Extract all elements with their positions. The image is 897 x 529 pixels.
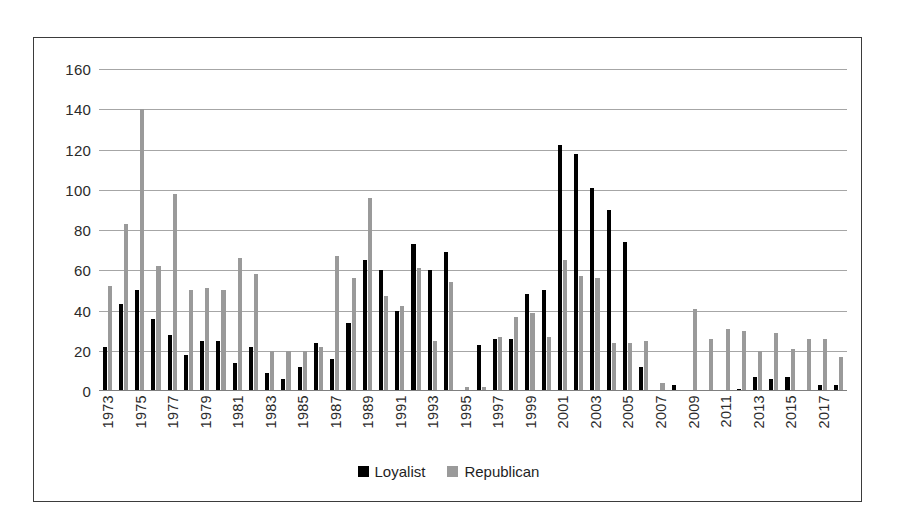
bar-loyalist xyxy=(477,345,481,391)
bar-loyalist xyxy=(135,290,139,391)
bar-group xyxy=(99,69,115,391)
bar-group xyxy=(538,69,554,391)
bar-republican xyxy=(807,339,811,391)
bar-group xyxy=(213,69,229,391)
x-tick-label: 1999 xyxy=(523,395,539,428)
bar-group xyxy=(782,69,798,391)
bar-republican xyxy=(417,268,421,391)
legend-item-loyalist: Loyalist xyxy=(358,463,426,480)
bar-republican xyxy=(612,343,616,391)
bar-republican xyxy=(823,339,827,391)
x-tick-label: 1983 xyxy=(263,395,279,428)
x-tick-label: 1987 xyxy=(328,395,344,428)
bar-loyalist xyxy=(314,343,318,391)
y-tick-label: 60 xyxy=(74,262,91,279)
y-tick-label: 20 xyxy=(74,342,91,359)
bar-loyalist xyxy=(509,339,513,391)
bar-republican xyxy=(254,274,258,391)
legend-swatch-loyalist-icon xyxy=(358,466,369,477)
bar-group xyxy=(327,69,343,391)
bar-loyalist xyxy=(558,145,562,391)
bar-republican xyxy=(742,331,746,391)
bar-loyalist xyxy=(574,154,578,391)
bar-group xyxy=(408,69,424,391)
bar-loyalist xyxy=(753,377,757,391)
x-tick-label: 1991 xyxy=(393,395,409,428)
bar-republican xyxy=(400,306,404,391)
x-tick-label: 2005 xyxy=(620,395,636,428)
bar-group xyxy=(684,69,700,391)
bar-republican xyxy=(189,290,193,391)
bar-group xyxy=(359,69,375,391)
bar-loyalist xyxy=(168,335,172,391)
y-tick-label: 160 xyxy=(65,61,91,78)
y-tick-label: 80 xyxy=(74,222,91,239)
bar-republican xyxy=(384,296,388,391)
bar-loyalist xyxy=(395,311,399,392)
x-tick-label: 2003 xyxy=(588,395,604,428)
bar-loyalist xyxy=(542,290,546,391)
y-tick-label: 140 xyxy=(65,101,91,118)
bar-republican xyxy=(156,266,160,391)
chart-frame: 020406080100120140160 197319751977197919… xyxy=(33,37,862,502)
x-tick-label: 1975 xyxy=(133,395,149,428)
y-tick-label: 0 xyxy=(82,383,91,400)
bar-republican xyxy=(563,260,567,391)
bar-group xyxy=(506,69,522,391)
x-tick-label: 1981 xyxy=(230,395,246,428)
bar-republican xyxy=(270,351,274,391)
plot-area xyxy=(99,69,847,391)
bar-republican xyxy=(173,194,177,391)
y-tick-label: 40 xyxy=(74,302,91,319)
bar-loyalist xyxy=(200,341,204,391)
bar-group xyxy=(375,69,391,391)
bar-loyalist xyxy=(216,341,220,391)
x-tick-label: 1985 xyxy=(295,395,311,428)
bar-loyalist xyxy=(346,323,350,391)
bar-group xyxy=(457,69,473,391)
bar-republican xyxy=(530,313,534,391)
x-tick-label: 1979 xyxy=(198,395,214,428)
bar-group xyxy=(798,69,814,391)
bar-group xyxy=(766,69,782,391)
bar-republican xyxy=(319,347,323,391)
bar-republican xyxy=(221,290,225,391)
bar-loyalist xyxy=(119,304,123,391)
bar-group xyxy=(587,69,603,391)
bar-republican xyxy=(693,309,697,392)
legend-label: Republican xyxy=(464,463,539,480)
bar-republican xyxy=(514,317,518,391)
bar-group xyxy=(148,69,164,391)
x-tick-label: 2013 xyxy=(751,395,767,428)
legend-item-republican: Republican xyxy=(447,463,539,480)
bars-layer xyxy=(99,69,847,391)
bar-group xyxy=(554,69,570,391)
bar-group xyxy=(831,69,847,391)
bar-loyalist xyxy=(607,210,611,391)
bar-group xyxy=(229,69,245,391)
bar-republican xyxy=(108,286,112,391)
x-tick-label: 2009 xyxy=(686,395,702,428)
bar-loyalist xyxy=(363,260,367,391)
bar-republican xyxy=(368,198,372,391)
bar-republican xyxy=(726,329,730,391)
bar-republican xyxy=(433,341,437,391)
bar-republican xyxy=(498,337,502,391)
bar-group xyxy=(652,69,668,391)
bar-republican xyxy=(791,349,795,391)
x-axis: 1973197519771979198119831985198719891991… xyxy=(99,391,847,453)
bar-group xyxy=(180,69,196,391)
bar-group xyxy=(440,69,456,391)
bar-group xyxy=(392,69,408,391)
bar-republican xyxy=(547,337,551,391)
bar-loyalist xyxy=(233,363,237,391)
bar-republican xyxy=(303,351,307,391)
bar-loyalist xyxy=(590,188,594,391)
bar-loyalist xyxy=(298,367,302,391)
x-tick-label: 1993 xyxy=(425,395,441,428)
y-tick-label: 100 xyxy=(65,181,91,198)
bar-group xyxy=(489,69,505,391)
bar-loyalist xyxy=(184,355,188,391)
bar-group xyxy=(668,69,684,391)
legend-label: Loyalist xyxy=(375,463,426,480)
